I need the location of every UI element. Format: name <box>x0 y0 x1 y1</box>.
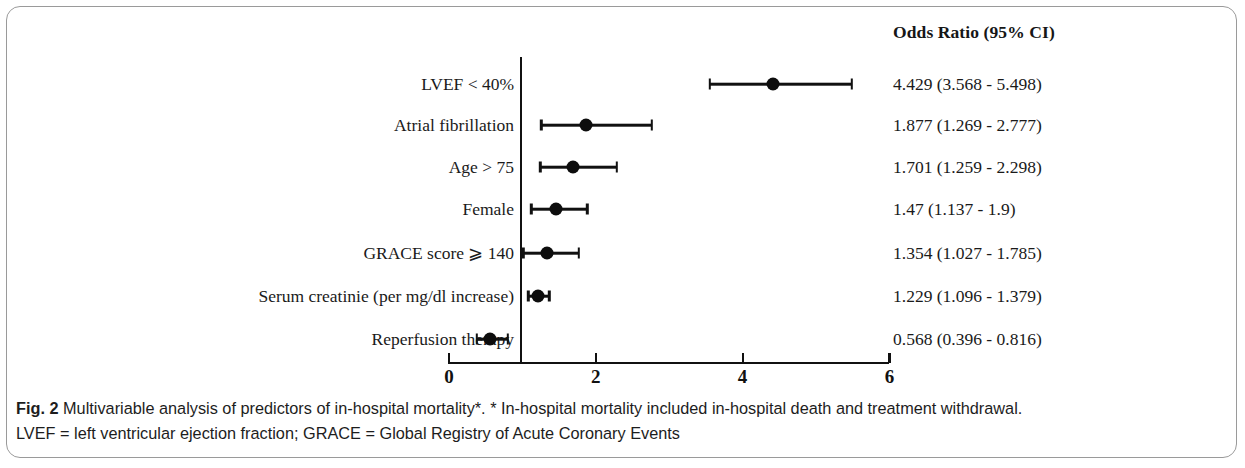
point-estimate-marker <box>579 119 592 132</box>
odds-ratio-value: 0.568 (0.396 - 0.816) <box>893 329 1042 350</box>
confidence-interval-line <box>710 83 852 86</box>
figure-caption: Fig. 2 Multivariable analysis of predict… <box>16 396 1230 446</box>
point-estimate-marker <box>566 161 579 174</box>
point-estimate-marker <box>549 203 562 216</box>
caption-line-1: Fig. 2 Multivariable analysis of predict… <box>16 396 1230 421</box>
point-estimate-marker <box>483 333 496 346</box>
ci-upper-cap <box>548 291 550 302</box>
odds-ratio-value: 1.701 (1.259 - 2.298) <box>893 157 1042 178</box>
forest-row-label: LVEF < 40% <box>421 74 514 95</box>
caption-line-2: LVEF = left ventricular ejection fractio… <box>16 421 1230 446</box>
figure-number: Fig. 2 <box>16 399 59 417</box>
figure-container: Odds Ratio (95% CI) LVEF < 40%4.429 (3.5… <box>0 0 1245 468</box>
ci-upper-cap <box>615 162 617 173</box>
ci-upper-cap <box>651 120 653 131</box>
x-axis-line <box>448 362 889 364</box>
x-axis-tick <box>595 353 597 363</box>
odds-ratio-value: 4.429 (3.568 - 5.498) <box>893 74 1042 95</box>
forest-row-label: Serum creatinie (per mg/dl increase) <box>258 286 514 307</box>
forest-row-label: Atrial fibrillation <box>394 115 514 136</box>
x-axis-tick-label: 4 <box>738 366 748 388</box>
odds-ratio-value: 1.47 (1.137 - 1.9) <box>893 199 1015 220</box>
forest-plot: Odds Ratio (95% CI) LVEF < 40%4.429 (3.5… <box>0 0 1245 400</box>
odds-ratio-column-header: Odds Ratio (95% CI) <box>893 22 1055 43</box>
ci-lower-cap <box>709 79 711 90</box>
odds-ratio-value: 1.877 (1.269 - 2.777) <box>893 115 1042 136</box>
x-axis-tick-label: 2 <box>591 366 601 388</box>
forest-row-label: Age > 75 <box>449 157 514 178</box>
forest-row-label: GRACE score ⩾ 140 <box>363 243 514 264</box>
x-axis-tick <box>888 353 890 363</box>
ci-lower-cap <box>522 248 524 259</box>
x-axis-tick <box>448 353 450 363</box>
point-estimate-marker <box>541 247 554 260</box>
odds-ratio-value: 1.354 (1.027 - 1.785) <box>893 243 1042 264</box>
ci-lower-cap <box>530 204 532 215</box>
ci-upper-cap <box>507 334 509 345</box>
ci-lower-cap <box>476 334 478 345</box>
confidence-interval-line <box>541 124 652 127</box>
forest-row-label: Female <box>462 199 514 220</box>
ci-lower-cap <box>540 120 542 131</box>
point-estimate-marker <box>532 290 545 303</box>
ci-upper-cap <box>850 79 852 90</box>
ci-upper-cap <box>578 248 580 259</box>
odds-ratio-value: 1.229 (1.096 - 1.379) <box>893 286 1042 307</box>
reference-line-or-1 <box>520 57 522 362</box>
x-axis-tick <box>742 353 744 363</box>
point-estimate-marker <box>767 78 780 91</box>
x-axis-tick-label: 0 <box>444 366 454 388</box>
x-axis-tick-label: 6 <box>885 366 895 388</box>
caption-text-1: Multivariable analysis of predictors of … <box>63 399 1022 417</box>
ci-lower-cap <box>527 291 529 302</box>
ci-upper-cap <box>586 204 588 215</box>
ci-lower-cap <box>539 162 541 173</box>
